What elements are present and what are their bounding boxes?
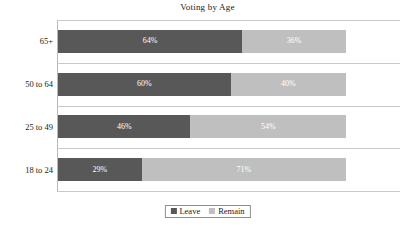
y-axis-label: 25 to 49 [1, 122, 53, 132]
legend-item-remain[interactable]: Remain [209, 207, 244, 216]
table-row: 46%54% [58, 115, 346, 138]
y-axis-labels: 65+50 to 6425 to 4918 to 24 [0, 20, 53, 191]
table-row: 64%36% [58, 30, 346, 53]
bar-segment-remain: 54% [190, 115, 346, 138]
y-axis-label: 18 to 24 [1, 165, 53, 175]
table-row: 29%71% [58, 158, 346, 181]
bar-segment-leave: 46% [58, 115, 190, 138]
bar-value-label: 46% [117, 123, 132, 131]
bar-value-label: 40% [281, 80, 296, 88]
bar-value-label: 71% [236, 166, 251, 174]
bar-value-label: 29% [92, 166, 107, 174]
gridline [57, 191, 400, 192]
y-axis-label: 65+ [1, 36, 53, 46]
bar-segment-remain: 40% [231, 73, 346, 96]
legend-item-leave[interactable]: Leave [170, 207, 200, 216]
y-axis-label: 50 to 64 [1, 79, 53, 89]
legend-swatch-icon [170, 208, 176, 214]
bar-segment-leave: 60% [58, 73, 231, 96]
legend-label: Leave [179, 207, 200, 216]
bar-value-label: 64% [143, 37, 158, 45]
bar-value-label: 54% [261, 123, 276, 131]
bar-value-label: 36% [287, 37, 302, 45]
chart-title: Voting by Age [0, 2, 415, 12]
bar-segment-remain: 36% [242, 30, 346, 53]
legend-label: Remain [218, 207, 244, 216]
chart-container: Voting by Age 65+50 to 6425 to 4918 to 2… [0, 0, 415, 235]
bar-value-label: 60% [137, 80, 152, 88]
legend-swatch-icon [209, 208, 215, 214]
chart-legend: LeaveRemain [164, 205, 250, 218]
bar-segment-remain: 71% [142, 158, 346, 181]
table-row: 60%40% [58, 73, 346, 96]
bar-segment-leave: 29% [58, 158, 142, 181]
bar-segment-leave: 64% [58, 30, 242, 53]
